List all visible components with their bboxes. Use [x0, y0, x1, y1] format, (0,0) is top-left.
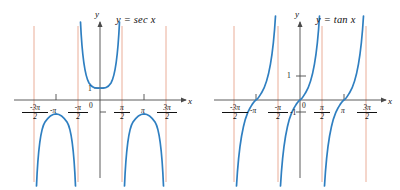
trig-graphs-figure: y = sec x x y -3π 2 -π -π 2 0 π 2 π 3π 2…: [0, 0, 400, 190]
xtick-neg-3pi-over-2-secant: -3π 2: [22, 104, 48, 121]
secant-plot-svg: [0, 0, 200, 190]
xtick-zero-secant: 0: [89, 101, 93, 110]
xtick-neg-pi-tangent: -π: [250, 106, 256, 115]
xtick-pi-over-2-tangent: π 2: [314, 104, 330, 121]
xtick-neg-pi-secant: -π: [50, 106, 56, 115]
xtick-pi-tangent: π: [341, 106, 345, 115]
ytick-one-tangent: 1: [287, 71, 291, 80]
xtick-pi-over-2-secant: π 2: [114, 104, 130, 121]
xtick-3pi-over-2-secant: 3π 2: [157, 104, 177, 121]
tangent-branch-right: [325, 16, 364, 186]
chart-title-tangent: y = tan x: [316, 14, 356, 25]
ytick-neg-one-tangent: -1: [290, 108, 296, 117]
secant-branch-left-negative: [37, 114, 76, 186]
xtick-pi-secant: π: [141, 106, 145, 115]
tangent-branch-left: [237, 16, 276, 186]
xtick-neg-pi-over-2-secant: -π 2: [68, 104, 88, 121]
xtick-zero-tangent: 0: [302, 101, 306, 110]
ytick-one-secant: 1: [88, 84, 92, 93]
secant-branch-right-negative: [125, 114, 164, 186]
chart-title-secant: y = sec x: [116, 14, 156, 25]
xtick-neg-pi-over-2-tangent: -π 2: [268, 104, 288, 121]
chart-panel-secant: y = sec x x y -3π 2 -π -π 2 0 π 2 π 3π 2…: [0, 0, 200, 190]
xtick-neg-3pi-over-2-tangent: -3π 2: [222, 104, 248, 121]
x-axis-label-secant: x: [188, 96, 192, 106]
chart-panel-tangent: y = tan x x y -3π 2 -π -π 2 0 π 2 π 3π 2…: [200, 0, 400, 190]
y-axis-label-secant: y: [95, 9, 99, 19]
y-axis-label-tangent: y: [295, 9, 299, 19]
xtick-3pi-over-2-tangent: 3π 2: [357, 104, 377, 121]
x-axis-label-tangent: x: [388, 96, 392, 106]
tangent-plot-svg: [200, 0, 400, 190]
